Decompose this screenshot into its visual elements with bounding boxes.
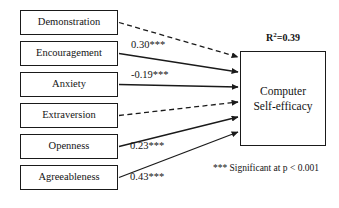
path-diagram-canvas: Demonstration Encouragement Anxiety Extr… — [0, 0, 339, 208]
predictor-label: Anxiety — [52, 79, 86, 90]
predictor-box-agreeableness[interactable]: Agreeableness — [20, 165, 118, 190]
predictor-label: Demonstration — [38, 17, 100, 28]
path-coefficient-agreeableness: 0.43*** — [130, 172, 164, 183]
predictor-box-demonstration[interactable]: Demonstration — [20, 10, 118, 35]
outcome-label-line2: Self-efficacy — [253, 99, 312, 114]
predictor-label: Encouragement — [36, 48, 102, 59]
r-squared-label: R2=0.39 — [250, 33, 316, 43]
predictor-label: Extraversion — [42, 110, 96, 121]
predictor-label: Openness — [49, 141, 90, 152]
outcome-box-computer-self-efficacy[interactable]: Computer Self-efficacy — [240, 51, 326, 146]
path-coefficient-anxiety: -0.19*** — [131, 70, 169, 81]
path-arrow-extraversion — [119, 102, 238, 116]
predictor-box-extraversion[interactable]: Extraversion — [20, 103, 118, 128]
path-arrow-anxiety — [119, 85, 238, 88]
path-coefficient-openness: 0.23*** — [130, 141, 164, 152]
predictor-box-encouragement[interactable]: Encouragement — [20, 41, 118, 66]
predictor-label: Agreeableness — [38, 172, 99, 183]
significance-footnote: *** Significant at p < 0.001 — [206, 164, 326, 174]
predictor-box-anxiety[interactable]: Anxiety — [20, 72, 118, 97]
outcome-label-line1: Computer — [253, 84, 312, 99]
outcome-label: Computer Self-efficacy — [253, 84, 312, 113]
r-squared-value: =0.39 — [277, 32, 300, 43]
predictor-box-openness[interactable]: Openness — [20, 134, 118, 159]
path-coefficient-encouragement: 0.30*** — [131, 40, 165, 51]
